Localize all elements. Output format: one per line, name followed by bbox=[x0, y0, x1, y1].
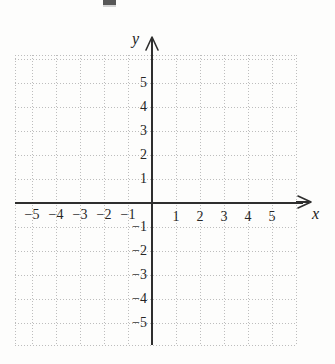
x-tick-label: 4 bbox=[237, 210, 259, 224]
grid-line-horizontal bbox=[15, 275, 296, 276]
y-axis-arrow-icon bbox=[143, 34, 161, 52]
grid-line-horizontal bbox=[15, 179, 296, 180]
y-tick-label: 1 bbox=[125, 172, 147, 186]
grid-line-horizontal bbox=[15, 59, 296, 60]
y-tick-label: 3 bbox=[125, 124, 147, 138]
y-tick-label: 2 bbox=[125, 148, 147, 162]
grid-line-vertical bbox=[200, 55, 201, 345]
grid-line-vertical bbox=[248, 55, 249, 345]
y-tick-label: 5 bbox=[125, 76, 147, 90]
grid-border-vertical bbox=[15, 55, 16, 345]
grid-line-vertical bbox=[56, 55, 57, 345]
x-axis-line bbox=[15, 202, 303, 204]
y-axis-label: y bbox=[132, 30, 139, 48]
x-tick-label: −1 bbox=[117, 208, 139, 222]
y-axis-line bbox=[151, 40, 153, 345]
x-tick-label: 3 bbox=[213, 210, 235, 224]
x-tick-label: 2 bbox=[189, 210, 211, 224]
x-tick-label: −4 bbox=[45, 208, 67, 222]
grid-line-vertical bbox=[176, 55, 177, 345]
x-tick-label: −3 bbox=[69, 208, 91, 222]
x-tick-label: 1 bbox=[165, 210, 187, 224]
grid-line-horizontal bbox=[15, 131, 296, 132]
y-tick-label: −5 bbox=[125, 316, 147, 330]
y-tick-label: −4 bbox=[125, 292, 147, 306]
x-tick-label: 5 bbox=[261, 210, 283, 224]
grid-line-horizontal bbox=[15, 155, 296, 156]
y-tick-label: −2 bbox=[125, 244, 147, 258]
grid-border-horizontal bbox=[15, 345, 296, 346]
grid-line-horizontal bbox=[15, 227, 296, 228]
grid-line-vertical bbox=[32, 55, 33, 345]
x-axis-label: x bbox=[312, 205, 319, 223]
grid-line-vertical bbox=[80, 55, 81, 345]
grid-line-vertical bbox=[272, 55, 273, 345]
grid-line-vertical bbox=[104, 55, 105, 345]
y-tick-label: −3 bbox=[125, 268, 147, 282]
grid-line-horizontal bbox=[15, 107, 296, 108]
x-tick-label: −2 bbox=[93, 208, 115, 222]
grid-line-horizontal bbox=[15, 251, 296, 252]
grid-line-horizontal bbox=[15, 323, 296, 324]
grid-line-horizontal bbox=[15, 299, 296, 300]
x-tick-label: −5 bbox=[21, 208, 43, 222]
y-tick-label: 4 bbox=[125, 100, 147, 114]
coordinate-plane-figure: y x 54321−1−2−3−4−512345−5−4−3−2−1 bbox=[0, 0, 335, 364]
scan-artifact-shadow bbox=[103, 5, 116, 7]
y-tick-label: −1 bbox=[125, 220, 147, 234]
grid-border-horizontal bbox=[15, 55, 296, 56]
grid-line-horizontal bbox=[15, 83, 296, 84]
grid-line-vertical bbox=[224, 55, 225, 345]
